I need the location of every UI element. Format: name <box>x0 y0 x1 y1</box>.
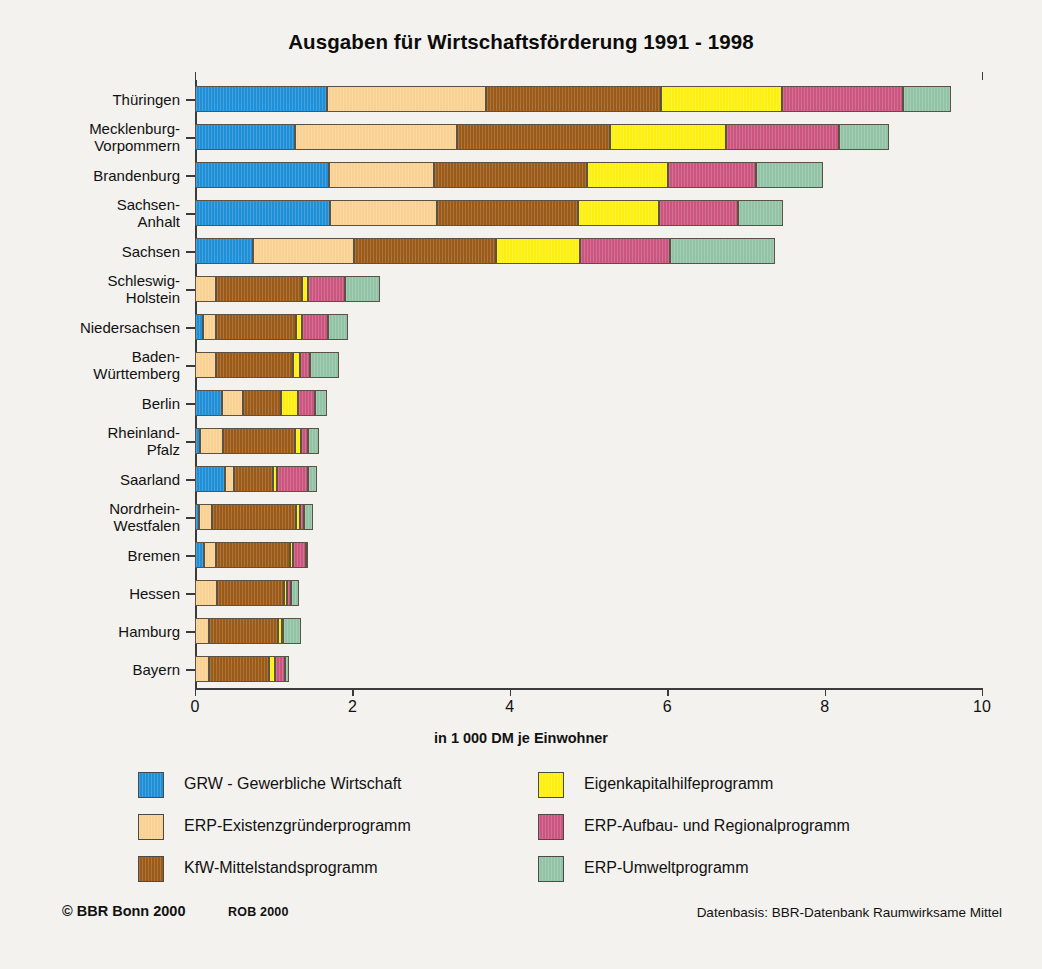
bar-segment-6[interactable] <box>310 352 339 378</box>
bar-row[interactable] <box>195 276 982 302</box>
bar-segment-3[interactable] <box>209 656 269 682</box>
bar-segment-2[interactable] <box>330 200 437 226</box>
bar-segment-5[interactable] <box>302 314 328 340</box>
bar-segment-3[interactable] <box>216 542 290 568</box>
legend-swatch-icon <box>538 814 564 840</box>
bar-segment-6[interactable] <box>670 238 775 264</box>
y-tick <box>186 251 195 253</box>
bar-segment-2[interactable] <box>222 390 243 416</box>
x-tick-label: 4 <box>505 698 514 716</box>
bar-segment-5[interactable] <box>293 542 306 568</box>
bar-segment-5[interactable] <box>277 466 308 492</box>
bar-segment-4[interactable] <box>281 390 298 416</box>
bar-segment-1[interactable] <box>195 238 253 264</box>
bar-segment-1[interactable] <box>195 124 295 150</box>
bar-segment-1[interactable] <box>195 542 204 568</box>
bar-segment-6[interactable] <box>756 162 823 188</box>
bar-segment-2[interactable] <box>195 352 216 378</box>
bar-row[interactable] <box>195 200 982 226</box>
bar-segment-1[interactable] <box>195 390 222 416</box>
bar-segment-1[interactable] <box>195 466 225 492</box>
bar-row[interactable] <box>195 618 982 644</box>
bar-segment-6[interactable] <box>304 504 313 530</box>
x-tick <box>667 688 668 696</box>
bar-segment-1[interactable] <box>195 200 330 226</box>
bar-row[interactable] <box>195 428 982 454</box>
bar-row[interactable] <box>195 352 982 378</box>
bar-segment-6[interactable] <box>291 580 299 606</box>
bar-row[interactable] <box>195 466 982 492</box>
bar-row[interactable] <box>195 238 982 264</box>
bar-segment-1[interactable] <box>195 162 329 188</box>
bar-segment-2[interactable] <box>327 86 486 112</box>
bar-segment-2[interactable] <box>329 162 434 188</box>
bar-segment-2[interactable] <box>203 314 216 340</box>
bar-segment-5[interactable] <box>275 656 284 682</box>
bar-segment-3[interactable] <box>234 466 273 492</box>
chart-legend: GRW - Gewerbliche WirtschaftERP-Existenz… <box>138 772 998 892</box>
bar-segment-4[interactable] <box>293 352 300 378</box>
bar-segment-2[interactable] <box>253 238 354 264</box>
bar-segment-3[interactable] <box>216 314 295 340</box>
bar-segment-6[interactable] <box>283 618 301 644</box>
bar-segment-3[interactable] <box>354 238 496 264</box>
bar-segment-2[interactable] <box>204 542 217 568</box>
y-axis-label-3: Brandenburg <box>10 167 180 184</box>
bar-segment-2[interactable] <box>225 466 234 492</box>
y-tick <box>186 479 195 481</box>
bar-segment-4[interactable] <box>578 200 659 226</box>
bar-segment-5[interactable] <box>726 124 839 150</box>
bar-row[interactable] <box>195 86 982 112</box>
bar-segment-2[interactable] <box>195 618 209 644</box>
bar-segment-6[interactable] <box>306 542 308 568</box>
bar-segment-5[interactable] <box>782 86 902 112</box>
bar-segment-5[interactable] <box>298 390 315 416</box>
bar-segment-4[interactable] <box>587 162 668 188</box>
bar-segment-3[interactable] <box>434 162 587 188</box>
bar-row[interactable] <box>195 124 982 150</box>
bar-segment-5[interactable] <box>580 238 671 264</box>
bar-segment-3[interactable] <box>223 428 295 454</box>
bar-segment-6[interactable] <box>308 428 320 454</box>
bar-segment-3[interactable] <box>437 200 578 226</box>
bar-segment-5[interactable] <box>668 162 756 188</box>
bar-segment-6[interactable] <box>308 466 317 492</box>
bar-segment-4[interactable] <box>610 124 726 150</box>
bar-segment-6[interactable] <box>839 124 889 150</box>
bar-row[interactable] <box>195 580 982 606</box>
bar-segment-4[interactable] <box>496 238 580 264</box>
bar-segment-3[interactable] <box>212 504 295 530</box>
plot-area: 0246810 <box>195 80 982 688</box>
bar-segment-3[interactable] <box>243 390 281 416</box>
bar-segment-6[interactable] <box>738 200 783 226</box>
bar-segment-2[interactable] <box>295 124 457 150</box>
bar-row[interactable] <box>195 542 982 568</box>
bar-segment-6[interactable] <box>315 390 328 416</box>
bar-segment-2[interactable] <box>195 276 216 302</box>
bar-segment-3[interactable] <box>486 86 661 112</box>
bar-segment-5[interactable] <box>300 352 310 378</box>
bar-segment-3[interactable] <box>457 124 610 150</box>
bar-row[interactable] <box>195 656 982 682</box>
bar-segment-3[interactable] <box>209 618 278 644</box>
bar-segment-2[interactable] <box>195 656 209 682</box>
bar-segment-3[interactable] <box>216 276 302 302</box>
bar-segment-6[interactable] <box>328 314 348 340</box>
bar-row[interactable] <box>195 162 982 188</box>
bar-segment-3[interactable] <box>217 580 284 606</box>
bar-segment-3[interactable] <box>216 352 292 378</box>
bar-segment-2[interactable] <box>195 580 217 606</box>
bar-segment-4[interactable] <box>661 86 782 112</box>
bar-segment-2[interactable] <box>199 504 212 530</box>
bar-segment-6[interactable] <box>903 86 951 112</box>
bar-segment-2[interactable] <box>200 428 224 454</box>
bar-segment-6[interactable] <box>345 276 380 302</box>
bar-segment-1[interactable] <box>195 314 203 340</box>
bar-segment-1[interactable] <box>195 86 327 112</box>
bar-segment-5[interactable] <box>308 276 345 302</box>
bar-segment-5[interactable] <box>659 200 738 226</box>
bar-row[interactable] <box>195 390 982 416</box>
bar-segment-6[interactable] <box>285 656 289 682</box>
bar-row[interactable] <box>195 314 982 340</box>
bar-row[interactable] <box>195 504 982 530</box>
